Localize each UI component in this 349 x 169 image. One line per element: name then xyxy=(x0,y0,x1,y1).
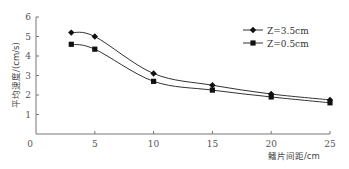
diamond-marker-icon xyxy=(68,29,74,35)
diamond-marker-icon xyxy=(250,27,256,33)
square-marker-icon xyxy=(69,42,74,47)
y-tick-label: 4 xyxy=(25,51,31,61)
diamond-marker-icon xyxy=(150,70,156,76)
square-marker-icon xyxy=(210,88,215,93)
diamond-marker-icon xyxy=(92,33,98,39)
x-axis-title: 鳍片间距/cm xyxy=(268,151,320,161)
square-marker-icon xyxy=(92,47,97,52)
legend-label: Z=3.5cm xyxy=(267,26,309,36)
square-marker-icon xyxy=(250,40,255,45)
y-axis-title: 平均速度/(cm/s) xyxy=(11,42,21,108)
diamond-marker-icon xyxy=(209,82,215,88)
x-tick-label: 0 xyxy=(27,139,33,149)
x-tick-label: 20 xyxy=(265,139,277,149)
square-marker-icon xyxy=(269,94,274,99)
legend-item: Z=0.5cm xyxy=(243,39,309,49)
legend: Z=3.5cmZ=0.5cm xyxy=(243,26,309,49)
square-marker-icon xyxy=(151,79,156,84)
series-line xyxy=(71,44,330,103)
y-tick-label: 3 xyxy=(25,71,31,81)
series-z-0-5cm xyxy=(69,42,333,106)
x-tick-label: 10 xyxy=(148,139,160,149)
y-tick-label: 5 xyxy=(25,32,31,42)
y-tick-label: 2 xyxy=(25,90,31,100)
line-chart: 0510152025123456 Z=3.5cmZ=0.5cm 平均速度/(cm… xyxy=(0,0,349,169)
y-tick-label: 6 xyxy=(25,12,31,22)
x-tick-label: 25 xyxy=(324,139,336,149)
square-marker-icon xyxy=(327,100,332,105)
legend-label: Z=0.5cm xyxy=(267,39,309,49)
x-tick-label: 15 xyxy=(207,139,219,149)
y-tick-label: 1 xyxy=(25,110,31,120)
x-tick-label: 5 xyxy=(92,139,98,149)
legend-item: Z=3.5cm xyxy=(243,26,309,36)
